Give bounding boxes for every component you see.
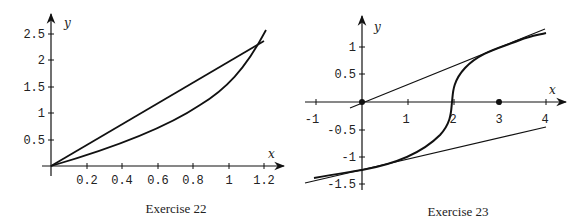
svg-text:0.2: 0.2 [76, 174, 98, 188]
y-axis-label: y [63, 16, 71, 30]
svg-text:0.4: 0.4 [111, 174, 133, 188]
svg-text:1: 1 [349, 41, 356, 55]
svg-text:1: 1 [402, 113, 409, 127]
svg-text:-1.5: -1.5 [327, 178, 356, 192]
svg-text:-1: -1 [305, 113, 319, 127]
series-curve [51, 30, 266, 166]
svg-text:-1: -1 [342, 151, 356, 165]
y-tick-labels: 0.5 1 1.5 2 2.5 [23, 28, 45, 148]
figure-canvas: y x 0.2 0.4 0.6 0.8 1 1.2 0.5 [0, 0, 577, 223]
svg-text:1: 1 [38, 107, 45, 121]
x-tick-labels: 0.2 0.4 0.6 0.8 1 1.2 [76, 174, 275, 188]
svg-text:1.5: 1.5 [23, 81, 45, 95]
point-x3 [496, 99, 502, 105]
svg-text:4: 4 [541, 113, 548, 127]
caption-exercise-23: Exercise 23 [427, 204, 488, 219]
point-origin [359, 99, 365, 105]
y-axis-label: y [373, 20, 381, 34]
caption-exercise-22: Exercise 22 [145, 201, 206, 216]
chart-exercise-23: y x -1 1 2 3 4 -1.5 -1 -0.5 0.5 [305, 16, 566, 219]
svg-text:0.5: 0.5 [23, 134, 45, 148]
svg-text:0.8: 0.8 [182, 174, 204, 188]
series-line [51, 41, 264, 166]
y-tick-labels: -1.5 -1 -0.5 0.5 1 [327, 41, 356, 192]
x-axis-label: x [268, 147, 275, 161]
svg-text:2.5: 2.5 [23, 28, 45, 42]
svg-text:0.5: 0.5 [334, 68, 356, 82]
svg-text:2: 2 [38, 54, 45, 68]
svg-text:-0.5: -0.5 [327, 124, 356, 138]
svg-text:0.6: 0.6 [147, 174, 169, 188]
x-axis-label: x [549, 83, 556, 97]
chart-exercise-22: y x 0.2 0.4 0.6 0.8 1 1.2 0.5 [23, 14, 284, 216]
svg-text:1: 1 [225, 174, 232, 188]
svg-text:3: 3 [495, 113, 502, 127]
svg-text:1.2: 1.2 [253, 174, 275, 188]
